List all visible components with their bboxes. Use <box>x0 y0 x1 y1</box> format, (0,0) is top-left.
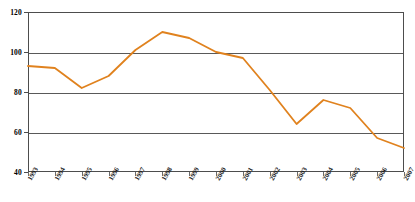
line-chart: 406080100120 199319941995199619971998199… <box>0 0 415 202</box>
y-tick-label: 80 <box>14 88 22 97</box>
y-axis: 406080100120 <box>0 0 28 202</box>
x-axis: 1993199419951996199719981999200020012002… <box>28 172 404 202</box>
y-tick-label: 100 <box>10 48 22 57</box>
y-tick-label: 40 <box>14 168 22 177</box>
series-line-index <box>28 12 404 172</box>
y-tick-label: 60 <box>14 128 22 137</box>
y-tick-label: 120 <box>10 8 22 17</box>
series-polyline <box>28 32 404 148</box>
